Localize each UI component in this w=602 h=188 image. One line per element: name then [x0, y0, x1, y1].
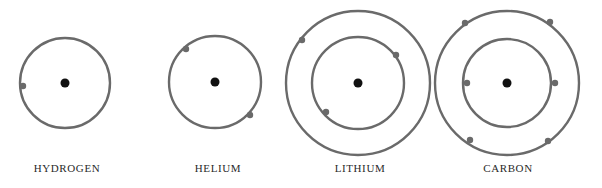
electron — [467, 137, 473, 143]
nucleus — [211, 78, 220, 87]
electron — [183, 46, 189, 52]
electron — [247, 112, 253, 118]
electron — [393, 52, 399, 58]
electron — [552, 80, 558, 86]
atom-label: CARBON — [483, 162, 532, 174]
bohr-models-diagram: HYDROGENHELIUMLITHIUMCARBON — [0, 0, 602, 188]
electron — [547, 19, 553, 25]
electron — [462, 20, 468, 26]
atom-hydrogen: HYDROGEN — [20, 38, 110, 174]
atom-carbon: CARBON — [435, 11, 579, 174]
electron — [464, 80, 470, 86]
nucleus — [61, 79, 70, 88]
nucleus — [354, 79, 363, 88]
electron — [299, 37, 305, 43]
atom-lithium: LITHIUM — [286, 11, 430, 174]
nucleus — [503, 79, 512, 88]
atom-label: LITHIUM — [335, 162, 386, 174]
atom-label: HYDROGEN — [34, 162, 101, 174]
electron — [545, 138, 551, 144]
atom-helium: HELIUM — [169, 36, 261, 174]
electron — [323, 109, 329, 115]
electron — [20, 83, 26, 89]
atom-label: HELIUM — [195, 162, 241, 174]
